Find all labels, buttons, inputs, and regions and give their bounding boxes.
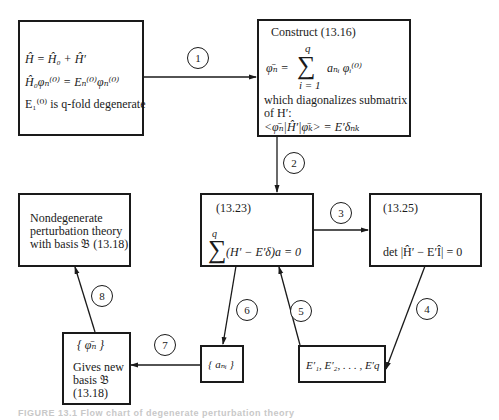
eigenvalue-list: E′₁, E′₂, . . . , E′q <box>306 358 380 372</box>
node-start: Ĥ = Ĥ₀ + Ĥ′ Ĥ₀φₙ⁽⁰⁾ = Eₙ⁽⁰⁾φₙ⁽⁰⁾ E₁⁽⁰⁾ i… <box>18 20 144 136</box>
sum-lhs: φ̄ₙ = <box>266 61 289 75</box>
nondegenerate-line-3: with basis 𝔅 (13.18) <box>30 237 128 251</box>
step-badge-2: 2 <box>283 152 305 174</box>
construct-desc-2: of H′: <box>264 106 292 120</box>
nondegenerate-line-1: Nondegenerate <box>30 211 103 225</box>
step-badge-6: 6 <box>236 299 258 321</box>
step-badge-8: 8 <box>91 285 113 307</box>
node-new-basis: { φ̄ₙ } Gives new basis 𝔅 (13.18) <box>62 332 131 405</box>
node-coefficients: { aₙᵢ } <box>200 345 244 383</box>
node-nondegenerate: Nondegenerate perturbation theory with b… <box>18 193 131 267</box>
eq-ref-13-23: (13.23) <box>216 201 251 215</box>
step-badge-4: 4 <box>416 298 438 320</box>
nondegenerate-line-2: perturbation theory <box>30 224 122 238</box>
hamiltonian-eq: Ĥ = Ĥ₀ + Ĥ′ <box>25 52 86 66</box>
construct-title: Construct (13.16) <box>271 25 356 39</box>
sum-rhs: aₙᵢ φᵢ⁽⁰⁾ <box>327 61 362 75</box>
new-basis-line-1: Gives new <box>73 360 124 374</box>
new-basis-line-2: basis 𝔅 <box>73 373 109 387</box>
step-badge-7: 7 <box>154 334 176 356</box>
unperturbed-eq: Ĥ₀φₙ⁽⁰⁾ = Eₙ⁽⁰⁾φₙ⁽⁰⁾ <box>25 75 119 89</box>
construct-desc-1: which diagonalizes submatrix <box>264 93 407 107</box>
step-badge-3: 3 <box>330 202 352 224</box>
determinant-equation: det |Ĥ′ − E′Î| = 0 <box>383 245 462 259</box>
step-badge-1: 1 <box>187 47 209 69</box>
coefficient-set: { aₙᵢ } <box>208 357 234 371</box>
sum-lower-limit: i = 1 <box>299 78 320 92</box>
degeneracy-note: E₁⁽⁰⁾ is q-fold degenerate <box>25 97 146 111</box>
secular-equation: (H′ − E′δ)a = 0 <box>226 245 301 259</box>
node-eq-13-25: (13.25) det |Ĥ′ − E′Î| = 0 <box>369 193 482 267</box>
eq-ref-13-25: (13.25) <box>383 201 418 215</box>
new-basis-line-3: (13.18) <box>73 386 108 400</box>
arrow-6 <box>223 266 236 344</box>
sum-symbol: ∑ <box>208 237 227 263</box>
step-badge-5: 5 <box>290 300 312 322</box>
node-eigenvalues: E′₁, E′₂, . . . , E′q <box>298 345 386 383</box>
node-eq-13-23: (13.23) q ∑ (H′ − E′δ)a = 0 <box>200 193 314 267</box>
basis-set: { φ̄ₙ } <box>77 338 104 352</box>
node-construct: Construct (13.16) q φ̄ₙ = ∑ aₙᵢ φᵢ⁽⁰⁾ i … <box>257 19 411 137</box>
figure-caption: FIGURE 13.1 Flow chart of degenerate per… <box>18 408 295 418</box>
sum-symbol: ∑ <box>297 53 316 79</box>
matrix-element-eq: <φ̄ₙ|Ĥ′|φ̄ₖ> = E′δₙₖ <box>264 120 359 134</box>
